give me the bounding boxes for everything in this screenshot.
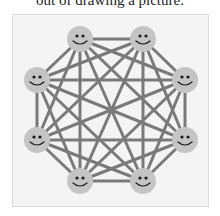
eye-icon — [38, 75, 41, 78]
eye-icon — [138, 34, 141, 37]
smiley-face-icon — [67, 168, 93, 194]
eye-icon — [32, 135, 35, 138]
eye-icon — [32, 75, 35, 78]
smiley-face-icon — [24, 127, 50, 153]
eye-icon — [144, 34, 147, 37]
eye-icon — [38, 135, 41, 138]
eye-icon — [75, 34, 78, 37]
eye-icon — [144, 176, 147, 179]
eye-icon — [180, 135, 183, 138]
smiley-face-icon — [172, 127, 198, 153]
graph-edge — [80, 39, 185, 140]
graph-edge — [80, 80, 185, 181]
graph-edge — [37, 39, 143, 140]
eye-icon — [138, 176, 141, 179]
smiley-face-icon — [130, 168, 156, 194]
graph-edge — [37, 80, 143, 181]
eye-icon — [81, 176, 84, 179]
eye-icon — [81, 34, 84, 37]
smiley-face-icon — [67, 26, 93, 52]
complete-graph-diagram — [0, 0, 220, 216]
eye-icon — [186, 75, 189, 78]
graph-edges — [37, 39, 185, 181]
eye-icon — [186, 135, 189, 138]
smiley-face-icon — [130, 26, 156, 52]
smiley-face-icon — [24, 67, 50, 93]
eye-icon — [75, 176, 78, 179]
eye-icon — [180, 75, 183, 78]
smiley-face-icon — [172, 67, 198, 93]
